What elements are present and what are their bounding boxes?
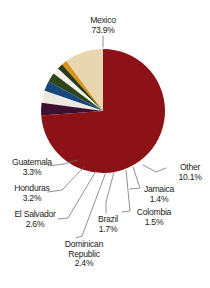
leader-other	[143, 165, 166, 172]
slice-label-jamaica: Jamaica 1.4%	[134, 185, 184, 204]
slice-label-dominican-republic: Dominican Republic 2.4%	[54, 240, 114, 269]
slice-label-mexico: Mexico 73.9%	[62, 16, 144, 35]
slice-label-other-percent: 10.1%	[170, 173, 210, 183]
slice-label-colombia-percent: 1.5%	[126, 218, 182, 228]
slice-label-mexico-percent: 73.9%	[62, 26, 144, 36]
slice-label-brazil: Brazil 1.7%	[86, 215, 130, 234]
slice-label-dominican-republic-percent: 2.4%	[54, 259, 114, 269]
slice-label-honduras-percent: 3.2%	[2, 194, 62, 204]
slice-label-el-salvador: El Salvador 2.6%	[2, 210, 68, 229]
slice-label-other: Other 10.1%	[170, 163, 210, 182]
slice-label-el-salvador-percent: 2.6%	[2, 220, 68, 230]
slice-label-brazil-percent: 1.7%	[86, 225, 130, 235]
slice-label-jamaica-percent: 1.4%	[134, 195, 184, 205]
pie-chart-figure: Mexico 73.9% Guatemala 3.3% Honduras 3.2…	[0, 0, 210, 288]
slice-label-guatemala: Guatemala 3.3%	[2, 158, 62, 177]
leader-brazil	[106, 172, 114, 213]
slice-label-guatemala-percent: 3.3%	[2, 168, 62, 178]
slice-label-honduras: Honduras 3.2%	[2, 184, 62, 203]
leader-colombia	[122, 170, 130, 212]
slice-label-colombia: Colombia 1.5%	[126, 208, 182, 227]
